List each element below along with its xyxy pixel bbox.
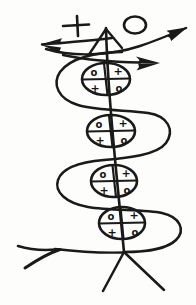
node-3-cell-top-left: o	[100, 169, 107, 180]
node-1[interactable]: o + + o	[82, 63, 130, 95]
node-2-cell-top-left: o	[96, 119, 103, 130]
node-1-cell-top-left: o	[91, 67, 98, 78]
node-4-cell-bottom-right: o	[132, 227, 139, 238]
circle-glyph-icon	[124, 17, 146, 34]
node-2-cell-bottom-left: +	[95, 134, 104, 147]
node-4-cell-top-left: o	[108, 211, 115, 222]
node-4-cell-bottom-left: +	[107, 226, 116, 239]
node-4-cell-top-right: +	[129, 209, 138, 222]
node-3-cell-bottom-left: +	[99, 184, 108, 197]
drawing-canvas: o + + o o + + o o + + o	[0, 0, 196, 305]
base-line	[18, 246, 124, 268]
sigil-drawing: o + + o o + + o o + + o	[0, 0, 196, 305]
node-3-cell-bottom-right: o	[124, 185, 131, 196]
node-4[interactable]: o + + o	[99, 207, 145, 239]
node-1-cell-top-right: +	[113, 65, 122, 78]
node-3[interactable]: o + + o	[91, 165, 137, 197]
legs	[103, 252, 164, 291]
node-1-cell-bottom-right: o	[116, 83, 123, 94]
node-2-cell-bottom-right: o	[121, 135, 128, 146]
node-1-cell-bottom-left: +	[90, 82, 99, 95]
node-3-cell-top-right: +	[121, 167, 130, 180]
plus-sign-icon	[63, 16, 89, 36]
node-2-cell-top-right: +	[118, 117, 127, 130]
